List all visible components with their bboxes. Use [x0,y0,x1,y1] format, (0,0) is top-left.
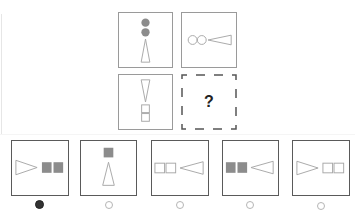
option-5-radio[interactable] [317,202,325,210]
option-1[interactable] [11,140,69,196]
option-2[interactable] [80,140,137,196]
grid-cell-bottom-left [118,74,173,130]
filled-squares-triangle-figure [223,141,278,195]
circles-triangle-figure [119,13,172,67]
square-triangle-figure [81,141,136,195]
triangle-filled-squares-figure [12,141,68,195]
circles-triangle-figure [182,13,236,67]
divider [0,134,355,135]
option-4[interactable] [222,140,279,196]
squares-triangle-figure [152,141,208,195]
triangle-squares-figure [119,75,172,129]
option-1-radio[interactable] [35,200,44,209]
missing-question-mark: ? [181,74,237,130]
grid-cell-top-right [181,12,237,68]
option-3-radio[interactable] [176,201,184,209]
option-4-radio[interactable] [246,201,254,209]
option-5[interactable] [292,140,350,196]
option-3[interactable] [151,140,209,196]
option-2-radio[interactable] [105,201,113,209]
grid-cell-top-left [118,12,173,68]
triangle-squares-figure [293,141,349,195]
left-edge-rule [1,14,2,134]
grid-cell-missing: ? [181,74,237,130]
